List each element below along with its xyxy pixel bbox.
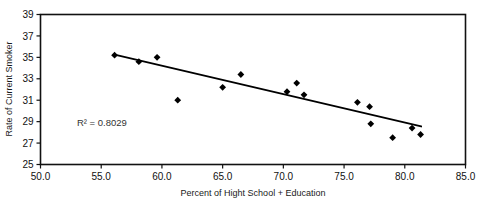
- y-tick-label: 31: [22, 95, 34, 106]
- scatter-chart: 2527293133353739 50.055.060.065.070.075.…: [0, 0, 480, 212]
- data-point: [366, 103, 373, 110]
- data-point: [174, 97, 181, 104]
- y-axis-label: Rate of Current Smoker: [4, 41, 14, 136]
- data-point: [301, 91, 308, 98]
- y-tick-label: 25: [22, 159, 34, 170]
- x-tick-label: 60.0: [152, 171, 172, 182]
- data-point: [417, 131, 424, 138]
- x-tick-label: 55.0: [91, 171, 111, 182]
- x-tick-label: 80.0: [395, 171, 415, 182]
- y-tick-label: 29: [22, 116, 34, 127]
- data-point: [293, 80, 300, 87]
- y-axis-ticks: 2527293133353739: [22, 9, 40, 170]
- trend-line-group: [115, 55, 422, 127]
- data-point: [389, 134, 396, 141]
- x-tick-label: 50.0: [31, 171, 51, 182]
- annotation-group: R² = 0.8029: [77, 117, 127, 128]
- regression-line: [115, 55, 422, 127]
- y-tick-label: 37: [22, 31, 34, 42]
- r-squared-annotation: R² = 0.8029: [77, 117, 127, 128]
- x-tick-label: 70.0: [274, 171, 294, 182]
- data-point: [111, 52, 118, 59]
- x-tick-label: 75.0: [334, 171, 354, 182]
- data-point: [219, 84, 226, 91]
- x-axis-label: Percent of Hight School + Education: [181, 188, 326, 198]
- x-axis-ticks: 50.055.060.065.070.075.080.085.0: [31, 165, 476, 182]
- y-tick-label: 27: [22, 138, 34, 149]
- y-tick-label: 33: [22, 73, 34, 84]
- y-tick-label: 39: [22, 9, 34, 20]
- chart-canvas: 2527293133353739 50.055.060.065.070.075.…: [0, 0, 480, 212]
- plot-frame: [41, 15, 466, 165]
- x-tick-label: 85.0: [456, 171, 476, 182]
- data-point: [354, 99, 361, 106]
- data-point: [237, 71, 244, 78]
- x-tick-label: 65.0: [213, 171, 233, 182]
- data-point: [154, 54, 161, 61]
- data-point: [367, 120, 374, 127]
- y-tick-label: 35: [22, 52, 34, 63]
